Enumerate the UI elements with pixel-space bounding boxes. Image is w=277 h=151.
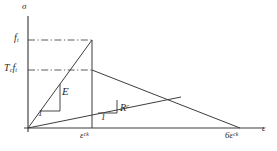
stress-strain-figure: σ ε ft Tcft εck 6εck E 1 Rc 1 (0, 0, 277, 151)
x-tick-label-epsck-sup: ck (84, 131, 89, 137)
x-tick-label-epsck-base: ε (80, 130, 84, 140)
diagram-canvas (0, 0, 277, 151)
y-tick-label-ft-sub: t (17, 36, 19, 43)
softening-branch (92, 70, 240, 128)
slope-run-label-Rc: 1 (101, 113, 106, 122)
x-axis-label: ε (262, 124, 266, 133)
x-tick-label-epsck: εck (80, 131, 89, 140)
axes (24, 16, 264, 132)
y-tick-label-tcft: Tcft (4, 63, 17, 74)
y-axis-label: σ (22, 2, 26, 11)
y-tick-label-tcft-prefix: T (4, 62, 10, 73)
x-tick-label-6epsck-sup: ck (233, 131, 238, 137)
y-tick-label-ft: ft (14, 33, 19, 44)
slope-label-E: E (62, 86, 69, 97)
slope-label-Rc-sup: c (126, 102, 129, 109)
x-tick-label-6epsck: 6εck (225, 131, 238, 140)
slope-run-label-E: 1 (38, 109, 43, 118)
guide-lines (28, 40, 92, 70)
y-tick-label-tcft-sub: t (15, 66, 17, 73)
slope-label-Rc: Rc (120, 103, 129, 113)
